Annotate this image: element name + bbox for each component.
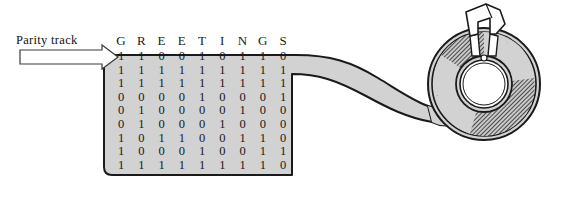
bit-cell: 1: [192, 77, 212, 91]
bit-cell: 0: [152, 104, 172, 118]
bit-cell: 0: [192, 104, 212, 118]
bit-cell: 0: [192, 118, 212, 132]
bit-cell: 0: [253, 104, 273, 118]
bit-cell: 0: [273, 132, 293, 146]
tape-reel: [428, 4, 540, 140]
bit-cell: 1: [253, 50, 273, 64]
bit-cell: 1: [152, 132, 172, 146]
bit-cell: 1: [273, 64, 293, 78]
bit-cell: 1: [172, 159, 192, 173]
bit-cell: 0: [273, 50, 293, 64]
bit-cell: 0: [131, 91, 151, 105]
bit-cell: 1: [172, 77, 192, 91]
column-header: I: [212, 33, 232, 49]
bit-cell: 0: [233, 145, 253, 159]
bit-cell: 0: [212, 132, 232, 146]
column-header: G: [111, 33, 131, 49]
column-header: N: [233, 33, 253, 49]
bit-cell: 0: [253, 118, 273, 132]
track-row-6: 010001000: [111, 118, 293, 132]
bit-cell: 0: [253, 91, 273, 105]
bit-cell: 0: [111, 118, 131, 132]
bit-cell: 1: [233, 77, 253, 91]
bit-cell: 1: [233, 132, 253, 146]
bit-cell: 1: [152, 159, 172, 173]
bit-cell: 0: [172, 145, 192, 159]
column-header: E: [172, 33, 192, 49]
bit-cell: 0: [152, 91, 172, 105]
bit-cell: 1: [212, 159, 232, 173]
bit-cell: 1: [192, 145, 212, 159]
bit-cell: 1: [253, 145, 273, 159]
bit-cell: 0: [233, 91, 253, 105]
bit-cell: 1: [152, 77, 172, 91]
bit-cell: 0: [212, 104, 232, 118]
bit-cell: 1: [111, 159, 131, 173]
bit-cell: 0: [192, 132, 212, 146]
parity-track-row: 110010110: [111, 50, 293, 64]
bit-cell: 0: [152, 50, 172, 64]
tape-parity-diagram: Parity track G R E E T I N G S 110010110…: [0, 0, 561, 197]
track-row-4: 000010001: [111, 91, 293, 105]
bit-cell: 0: [172, 118, 192, 132]
bit-cell: 0: [111, 104, 131, 118]
bit-cell: 1: [273, 77, 293, 91]
tape-column-headers: G R E E T I N G S: [111, 33, 293, 49]
track-row-3: 111111111: [111, 77, 293, 91]
bit-cell: 1: [131, 50, 151, 64]
bit-cell: 0: [212, 145, 232, 159]
column-header: S: [273, 33, 293, 49]
parity-track-label: Parity track: [16, 33, 78, 48]
bit-cell: 0: [212, 91, 232, 105]
bit-cell: 1: [111, 132, 131, 146]
bit-cell: 1: [212, 118, 232, 132]
bit-cell: 1: [131, 77, 151, 91]
bit-cell: 1: [253, 64, 273, 78]
column-header: E: [152, 33, 172, 49]
track-row-8: 100010011: [111, 145, 293, 159]
bit-cell: 0: [273, 159, 293, 173]
bit-cell: 0: [111, 91, 131, 105]
bit-cell: 1: [111, 77, 131, 91]
bit-cell: 1: [192, 50, 212, 64]
track-row-5: 010000100: [111, 104, 293, 118]
bit-cell: 0: [152, 145, 172, 159]
bit-cell: 0: [172, 104, 192, 118]
track-row-9: 111111110: [111, 159, 293, 173]
column-header: R: [131, 33, 151, 49]
bit-cell: 1: [273, 145, 293, 159]
column-header: T: [192, 33, 212, 49]
track-row-2: 111111111: [111, 64, 293, 78]
bit-cell: 1: [111, 64, 131, 78]
track-row-7: 101100110: [111, 132, 293, 146]
bit-cell: 1: [152, 64, 172, 78]
bit-cell: 1: [131, 159, 151, 173]
bit-cell: 0: [131, 132, 151, 146]
bit-cell: 1: [131, 104, 151, 118]
bit-cell: 0: [273, 104, 293, 118]
column-header: G: [253, 33, 273, 49]
bit-cell: 1: [253, 77, 273, 91]
bit-cell: 1: [172, 132, 192, 146]
bit-cell: 1: [253, 159, 273, 173]
bit-cell: 1: [172, 64, 192, 78]
bit-cell: 1: [212, 77, 232, 91]
bit-cell: 1: [233, 64, 253, 78]
bit-cell: 1: [192, 159, 212, 173]
bit-cell: 1: [131, 64, 151, 78]
bit-cell: 1: [233, 104, 253, 118]
bit-cell: 1: [111, 50, 131, 64]
bit-cell: 0: [273, 118, 293, 132]
bit-cell: 1: [253, 132, 273, 146]
bit-cell: 1: [111, 145, 131, 159]
bit-cell: 1: [192, 64, 212, 78]
parity-track-arrow: [20, 45, 118, 69]
bit-cell: 0: [212, 50, 232, 64]
tape-bit-matrix: 1100101101111111111111111110000100010100…: [111, 50, 293, 172]
bit-cell: 1: [131, 118, 151, 132]
bit-cell: 0: [172, 91, 192, 105]
bit-cell: 0: [233, 118, 253, 132]
bit-cell: 1: [233, 50, 253, 64]
bit-cell: 0: [131, 145, 151, 159]
bit-cell: 1: [212, 64, 232, 78]
